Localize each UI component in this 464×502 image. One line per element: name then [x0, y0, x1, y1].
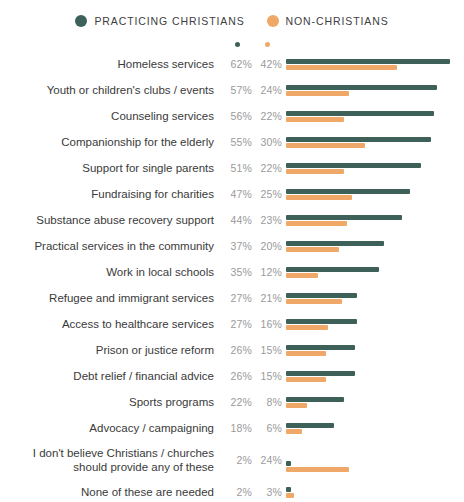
- value-series-a: 18%: [222, 422, 252, 434]
- chart-row: Practical services in the community37%20…: [0, 233, 464, 259]
- value-series-b: 15%: [252, 370, 282, 382]
- legend-item-practicing-christians: PRACTICING CHRISTIANS: [75, 15, 244, 27]
- bar-series-a: [286, 241, 384, 246]
- value-series-a: 26%: [222, 344, 252, 356]
- value-series-a: 44%: [222, 214, 252, 226]
- bar-series-a: [286, 371, 355, 376]
- chart-row: Sports programs22%8%: [0, 389, 464, 415]
- category-label: Refugee and immigrant services: [0, 291, 222, 305]
- bar-series-b: [286, 493, 294, 498]
- bar-series-a: [286, 423, 334, 428]
- bar-series-a: [286, 397, 344, 402]
- category-label: Practical services in the community: [0, 239, 222, 253]
- bar-series-b: [286, 467, 349, 472]
- category-label: Prison or justice reform: [0, 343, 222, 357]
- value-series-a: 47%: [222, 188, 252, 200]
- category-label: Access to healthcare services: [0, 317, 222, 331]
- chart-row: Homeless services62%42%: [0, 51, 464, 77]
- value-column-headers: [0, 38, 464, 50]
- chart-row: Work in local schools35%12%: [0, 259, 464, 285]
- chart-row: Fundraising for charities47%25%: [0, 181, 464, 207]
- bar-series-b: [286, 247, 339, 252]
- value-series-a: 2%: [222, 486, 252, 498]
- category-label: Fundraising for charities: [0, 187, 222, 201]
- chart-row: Substance abuse recovery support44%23%: [0, 207, 464, 233]
- bar-series-b: [286, 169, 344, 174]
- chart-row: None of these are needed2%3%: [0, 479, 464, 502]
- value-series-a: 62%: [222, 58, 252, 70]
- bar-pair: [282, 103, 464, 129]
- chart-row: Counseling services56%22%: [0, 103, 464, 129]
- bar-pair: [282, 77, 464, 103]
- chart-row: Access to healthcare services27%16%: [0, 311, 464, 337]
- bar-pair: [282, 447, 464, 473]
- bar-series-a: [286, 487, 291, 492]
- bar-series-b: [286, 143, 365, 148]
- bar-pair: [282, 259, 464, 285]
- bar-series-a: [286, 215, 402, 220]
- bar-series-b: [286, 273, 318, 278]
- chart-legend: PRACTICING CHRISTIANS NON-CHRISTIANS: [0, 0, 464, 38]
- category-label: Substance abuse recovery support: [0, 213, 222, 227]
- value-series-b: 12%: [252, 266, 282, 278]
- bar-pair: [282, 311, 464, 337]
- circle-icon: [267, 15, 279, 27]
- bar-series-b: [286, 377, 326, 382]
- bar-series-a: [286, 137, 431, 142]
- bar-pair: [282, 233, 464, 259]
- header-dot-series-b: [252, 42, 282, 47]
- value-series-a: 22%: [222, 396, 252, 408]
- bar-pair: [282, 479, 464, 502]
- bar-pair: [282, 51, 464, 77]
- bar-pair: [282, 181, 464, 207]
- value-series-b: 25%: [252, 188, 282, 200]
- value-series-b: 24%: [252, 84, 282, 96]
- value-series-a: 56%: [222, 110, 252, 122]
- category-label: Companionship for the elderly: [0, 135, 222, 149]
- paired-bar-chart: Homeless services62%42%Youth or children…: [0, 38, 464, 502]
- value-series-b: 3%: [252, 486, 282, 498]
- value-series-b: 42%: [252, 58, 282, 70]
- bar-series-a: [286, 111, 434, 116]
- category-label: None of these are needed: [0, 485, 222, 499]
- category-label: Youth or children's clubs / events: [0, 83, 222, 97]
- bar-series-b: [286, 299, 342, 304]
- bar-pair: [282, 363, 464, 389]
- value-series-b: 21%: [252, 292, 282, 304]
- value-series-b: 23%: [252, 214, 282, 226]
- bar-pair: [282, 285, 464, 311]
- category-label: Debt relief / financial advice: [0, 369, 222, 383]
- chart-row: Prison or justice reform26%15%: [0, 337, 464, 363]
- value-series-b: 8%: [252, 396, 282, 408]
- category-label: I don't believe Christians / churches sh…: [0, 446, 222, 474]
- bar-series-a: [286, 163, 421, 168]
- category-label: Advocacy / campaigning: [0, 421, 222, 435]
- category-label: Homeless services: [0, 57, 222, 71]
- bar-series-b: [286, 403, 307, 408]
- bar-series-b: [286, 351, 326, 356]
- chart-row: Youth or children's clubs / events57%24%: [0, 77, 464, 103]
- bar-series-b: [286, 325, 328, 330]
- legend-label: NON-CHRISTIANS: [286, 15, 389, 27]
- value-series-b: 16%: [252, 318, 282, 330]
- bar-series-b: [286, 91, 349, 96]
- bar-series-b: [286, 117, 344, 122]
- circle-icon: [265, 42, 270, 47]
- value-series-b: 15%: [252, 344, 282, 356]
- category-label: Counseling services: [0, 109, 222, 123]
- circle-icon: [235, 42, 240, 47]
- value-series-b: 22%: [252, 162, 282, 174]
- chart-row: Advocacy / campaigning18%6%: [0, 415, 464, 441]
- value-series-b: 24%: [252, 454, 282, 466]
- category-label: Sports programs: [0, 395, 222, 409]
- bar-pair: [282, 155, 464, 181]
- bar-series-a: [286, 59, 450, 64]
- value-series-a: 35%: [222, 266, 252, 278]
- chart-row: Support for single parents51%22%: [0, 155, 464, 181]
- value-series-a: 26%: [222, 370, 252, 382]
- category-label: Work in local schools: [0, 265, 222, 279]
- value-series-a: 55%: [222, 136, 252, 148]
- bar-series-b: [286, 195, 352, 200]
- bar-series-a: [286, 267, 379, 272]
- value-series-b: 30%: [252, 136, 282, 148]
